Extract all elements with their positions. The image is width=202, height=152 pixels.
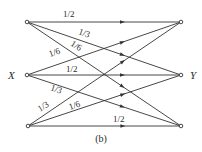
edges-group — [27, 20, 181, 128]
edge-label: 1/6 — [47, 46, 62, 59]
figure-caption: (b) — [95, 133, 107, 145]
diagram-canvas: 1/21/31/61/61/21/31/31/61/2 X Y (b) — [0, 0, 202, 152]
arrow-icon — [120, 20, 125, 24]
edge-label: 1/6 — [67, 99, 82, 112]
arrow-icon — [120, 41, 125, 44]
node-y2 — [179, 73, 183, 77]
arrow-icon — [119, 84, 124, 88]
channel-transition-diagram: 1/21/31/61/61/21/31/31/61/2 X Y (b) — [0, 0, 202, 152]
edge-label: 1/2 — [113, 114, 125, 124]
arrow-icon — [120, 93, 125, 96]
arrow-icon — [120, 73, 125, 77]
node-x3 — [26, 124, 30, 128]
node-x1 — [25, 20, 29, 24]
edge-label: 1/3 — [77, 26, 92, 39]
arrow-icon — [120, 60, 125, 64]
node-x2 — [25, 73, 29, 77]
edge-label: 1/3 — [49, 82, 64, 95]
edge-labels-group: 1/21/31/61/61/21/31/31/61/2 — [36, 9, 125, 124]
node-y3 — [179, 124, 183, 128]
arrow-icon — [120, 104, 125, 107]
node-y1 — [179, 20, 183, 24]
edge-label: 1/2 — [66, 64, 78, 74]
arrow-icon — [120, 52, 125, 55]
input-label-x: X — [7, 69, 16, 81]
arrow-icon — [120, 124, 125, 128]
output-label-y: Y — [190, 69, 198, 81]
edge-label: 1/2 — [63, 9, 75, 19]
